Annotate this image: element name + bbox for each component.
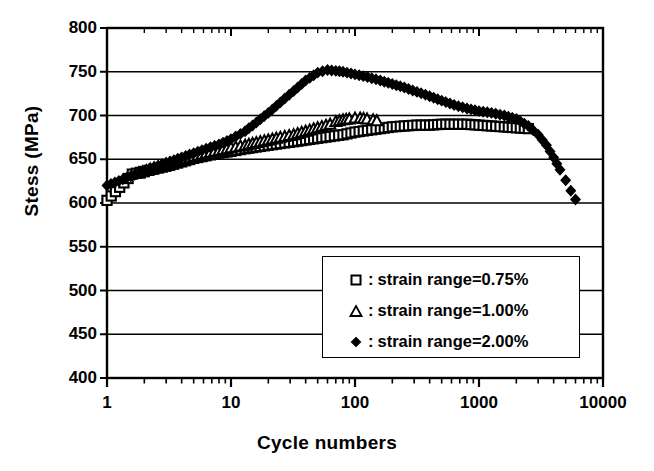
legend-item-0: : strain range=0.75%: [323, 264, 579, 295]
legend-label-2: strain range=2.00%: [378, 332, 529, 351]
legend-separator-0: :: [368, 270, 374, 289]
legend-label-1: strain range=1.00%: [378, 301, 529, 320]
legend-separator-1: :: [368, 301, 374, 320]
legend-item-1: : strain range=1.00%: [323, 295, 579, 326]
chart-figure: Stess (MPa) Cycle numbers 40045050055060…: [0, 0, 654, 471]
open-triangle-icon: [345, 304, 367, 318]
legend-label-0: strain range=0.75%: [378, 270, 529, 289]
filled-diamond-icon: [345, 335, 367, 349]
open-square-icon: [345, 273, 367, 287]
data-series: [102, 65, 580, 205]
legend-separator-2: :: [368, 332, 374, 351]
legend-item-2: : strain range=2.00%: [323, 326, 579, 357]
plot-area: [0, 0, 654, 471]
legend: : strain range=0.75% : strain range=1.00…: [322, 256, 580, 358]
